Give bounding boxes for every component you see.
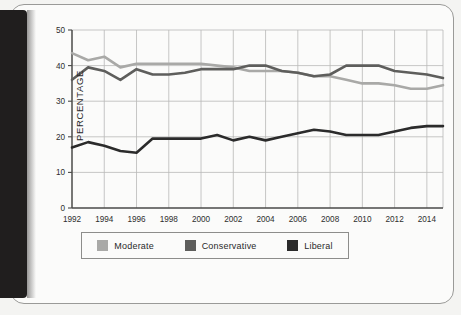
x-tick-label: 2014 xyxy=(418,215,437,224)
x-tick-label: 1998 xyxy=(160,215,179,224)
chart-legend: Moderate Conservative Liberal xyxy=(81,232,349,259)
page-gutter-shadow xyxy=(27,10,36,298)
x-tick-label: 2006 xyxy=(289,215,308,224)
x-tick-label: 2010 xyxy=(353,215,372,224)
gridlines-vertical xyxy=(72,30,443,208)
data-series-group xyxy=(72,53,443,153)
y-tick-label: 0 xyxy=(60,204,65,213)
x-tick-label: 1996 xyxy=(127,215,146,224)
x-tick-label: 2002 xyxy=(224,215,243,224)
x-tick-labels: 1992199419961998200020022004200620082010… xyxy=(63,215,437,224)
y-tick-label: 30 xyxy=(56,97,66,106)
legend-item-conservative: Conservative xyxy=(185,240,257,251)
legend-item-moderate: Moderate xyxy=(97,240,154,251)
y-tick-label: 40 xyxy=(56,62,66,71)
legend-label-liberal: Liberal xyxy=(304,241,332,251)
y-tick-label: 20 xyxy=(56,133,66,142)
series-line-liberal xyxy=(72,126,443,153)
y-axis-title: PERCENTAGE xyxy=(74,41,85,171)
scanned-page-background: PERCENTAGE 01020304050 19921994199619982… xyxy=(0,0,461,315)
legend-swatch-conservative xyxy=(185,240,196,251)
legend-label-moderate: Moderate xyxy=(114,241,154,251)
legend-label-conservative: Conservative xyxy=(202,241,257,251)
y-tick-label: 10 xyxy=(56,168,66,177)
x-tick-label: 1994 xyxy=(95,215,114,224)
y-tick-label: 50 xyxy=(56,26,66,35)
axis-lines xyxy=(72,30,443,208)
legend-item-liberal: Liberal xyxy=(287,240,332,251)
x-tick-label: 2004 xyxy=(256,215,275,224)
series-line-conservative xyxy=(72,66,443,80)
chart-plot: 01020304050 1992199419961998200020022004… xyxy=(36,20,451,250)
y-tick-labels: 01020304050 xyxy=(56,26,72,213)
x-tick-label: 2012 xyxy=(385,215,404,224)
page-gutter-binding xyxy=(0,10,27,298)
legend-swatch-liberal xyxy=(287,240,298,251)
series-line-moderate xyxy=(72,53,443,89)
x-tick-label: 1992 xyxy=(63,215,82,224)
x-tick-label: 2008 xyxy=(321,215,340,224)
legend-swatch-moderate xyxy=(97,240,108,251)
x-tick-label: 2000 xyxy=(192,215,211,224)
